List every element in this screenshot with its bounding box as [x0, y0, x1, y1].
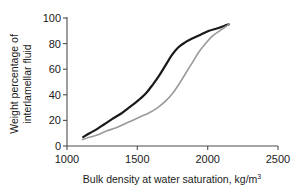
- y-tick-label-100: 100: [43, 12, 61, 24]
- x-tick-label-1500: 1500: [125, 153, 149, 165]
- hysteresis-line-chart: Weight percentage of interlamellar fluid…: [0, 0, 301, 194]
- x-axis-title: Bulk density at water saturation, kg/m3: [83, 173, 262, 185]
- y-tick-label-60: 60: [49, 63, 61, 75]
- x-tick-label-2500: 2500: [266, 153, 290, 165]
- x-tick-label-1000: 1000: [55, 153, 79, 165]
- x-axis-title-text: Bulk density at water saturation, kg/m3: [83, 173, 262, 185]
- y-tick-label-40: 40: [49, 89, 61, 101]
- y-tick-labels: 100 80 60 40 20 0: [43, 12, 61, 152]
- y-axis-title: Weight percentage of interlamellar fluid: [8, 34, 33, 134]
- chart-figure: Weight percentage of interlamellar fluid…: [0, 0, 301, 194]
- y-axis-title-line1: Weight percentage of: [8, 34, 20, 134]
- y-tick-marks: [63, 18, 67, 146]
- x-tick-labels: 1000 1500 2000 2500: [55, 153, 290, 165]
- data-series-layer: [82, 24, 228, 139]
- y-tick-label-80: 80: [49, 38, 61, 50]
- x-tick-label-2000: 2000: [195, 153, 219, 165]
- y-axis-title-line2: interlamellar fluid: [21, 44, 33, 124]
- x-axis-title-main: Bulk density at water saturation, kg/m: [83, 173, 258, 185]
- y-tick-label-0: 0: [55, 140, 61, 152]
- y-tick-label-20: 20: [49, 114, 61, 126]
- x-tick-marks: [67, 146, 278, 150]
- x-axis-title-superscript: 3: [257, 173, 261, 180]
